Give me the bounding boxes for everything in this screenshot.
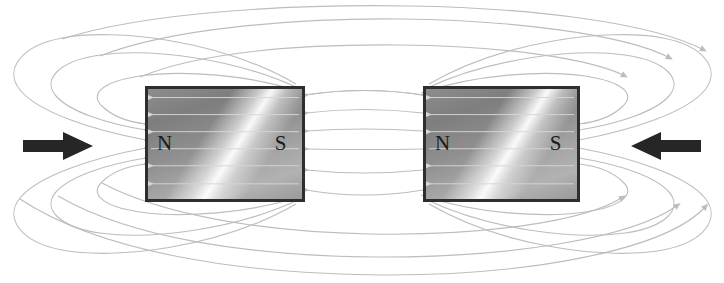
field-lines-layer xyxy=(0,0,724,283)
left-magnet: N S xyxy=(145,86,305,202)
left-magnet-south-label: S xyxy=(275,133,287,154)
field-lines-gap xyxy=(305,91,423,196)
right-force-arrow-icon xyxy=(629,129,703,163)
magnetic-field-diagram: N S N S xyxy=(0,0,724,283)
left-magnet-north-label: N xyxy=(157,133,173,154)
right-magnet-north-label: N xyxy=(435,133,451,154)
right-magnet-south-label: S xyxy=(550,133,562,154)
right-magnet: N S xyxy=(423,86,580,202)
left-force-arrow-icon xyxy=(21,129,95,163)
field-loops-outer-bottom xyxy=(20,183,706,275)
field-loops-outer-top xyxy=(62,6,704,77)
